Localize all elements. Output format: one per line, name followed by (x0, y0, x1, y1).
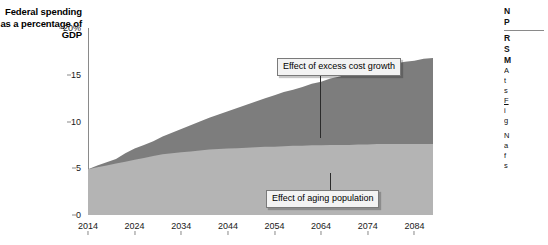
x-tick-2084: 2084 (404, 215, 424, 231)
callout-excess-cost-growth: Effect of excess cost growth (277, 58, 401, 76)
leader-line-aging-population (330, 173, 331, 190)
y-tick-15: 15 (71, 70, 88, 80)
side-body-line-2: t (504, 76, 548, 86)
x-tick-mark (321, 231, 322, 235)
x-tick-label: 2084 (404, 221, 424, 231)
x-tick-mark (367, 231, 368, 235)
side-body-line-6: g (504, 116, 548, 126)
x-tick-2034: 2034 (171, 215, 191, 231)
x-tick-label: 2044 (218, 221, 238, 231)
x-tick-2014: 2014 (78, 215, 98, 231)
x-tick-2074: 2074 (358, 215, 378, 231)
side-body-line-10: s (504, 161, 548, 171)
x-tick-label: 2074 (358, 221, 378, 231)
leader-line-excess-cost-growth (320, 76, 321, 138)
x-tick-label: 2014 (78, 221, 98, 231)
side-divider (504, 30, 544, 31)
y-tick-mark (67, 74, 71, 75)
side-body-line-1: A (504, 66, 548, 76)
side-heading-line-1: N (504, 6, 548, 17)
side-heading-line-2: P (504, 17, 548, 28)
x-tick-mark (227, 231, 228, 235)
y-tick-mark (67, 121, 71, 122)
x-tick-mark (181, 231, 182, 235)
side-text-column: N P R S M A t s F i g N a f s (504, 6, 548, 171)
y-tick-label: 10 (71, 117, 81, 127)
x-tick-label: 2034 (171, 221, 191, 231)
y-tick-label: 15 (71, 70, 81, 80)
y-tick-20: 20% (63, 23, 88, 33)
y-tick-mark (59, 28, 63, 29)
x-tick-label: 2024 (125, 221, 145, 231)
plot-area: 0 5 10 15 20% 2014 2024 20 (88, 28, 433, 215)
side-body-line-8: a (504, 141, 548, 151)
y-tick-mark (72, 215, 76, 216)
x-tick-mark (274, 231, 275, 235)
x-tick-2024: 2024 (125, 215, 145, 231)
y-tick-label: 20% (63, 23, 81, 33)
side-subheading-line-3: M (504, 55, 548, 66)
x-tick-2054: 2054 (264, 215, 284, 231)
stacked-area-series (88, 28, 433, 215)
callout-aging-population: Effect of aging population (266, 190, 379, 208)
x-tick-mark (88, 231, 89, 235)
side-body-line-9: f (504, 151, 548, 161)
side-subheading-line-1: R (504, 33, 548, 44)
side-body-line-4[interactable]: F (504, 96, 548, 106)
x-tick-label: 2054 (264, 221, 284, 231)
side-subheading-line-2: S (504, 44, 548, 55)
side-body-line-3: s (504, 86, 548, 96)
x-tick-label: 2064 (311, 221, 331, 231)
x-tick-mark (414, 231, 415, 235)
y-tick-10: 10 (71, 117, 88, 127)
y-tick-mark (72, 168, 76, 169)
x-tick-2064: 2064 (311, 215, 331, 231)
x-tick-2044: 2044 (218, 215, 238, 231)
side-body-line-5: i (504, 106, 548, 116)
side-body-line-7: N (504, 131, 548, 141)
x-tick-mark (134, 231, 135, 235)
y-tick-label: 5 (76, 163, 81, 173)
y-tick-5: 5 (76, 163, 88, 173)
